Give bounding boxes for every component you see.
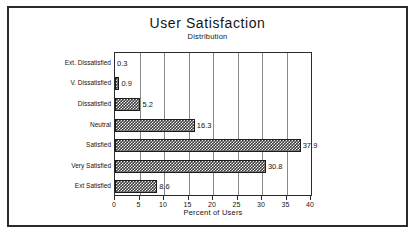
y-axis-labels: Ext. DissatisfiedV. DissatisfiedDissatis… <box>9 52 111 196</box>
x-axis-tick <box>163 196 164 200</box>
y-axis-tick-label: Satisfied <box>86 141 111 148</box>
bar-value-label: 30.8 <box>268 162 283 171</box>
bar-row: 0.3 <box>115 57 127 70</box>
bar <box>115 98 140 111</box>
bar-value-label: 8.6 <box>159 182 169 191</box>
x-axis-tick-label: 0 <box>112 201 116 208</box>
x-axis-tick-label: 5 <box>137 201 141 208</box>
x-axis-tick <box>139 196 140 200</box>
plot-area: 0.30.95.216.337.930.88.6 <box>114 52 312 196</box>
y-axis-tick-label: V. Dissatisfied <box>70 79 111 86</box>
bar-row: 5.2 <box>115 98 153 111</box>
bar <box>115 139 301 152</box>
x-axis-title: Percent of Users <box>114 208 312 217</box>
bar-row: 8.6 <box>115 180 170 193</box>
y-axis-tick-label: Very Satisfied <box>71 162 111 169</box>
x-axis-tick <box>286 196 287 200</box>
bar-value-label: 5.2 <box>142 100 152 109</box>
chart-frame: User Satisfaction Distribution Ext. Diss… <box>7 6 408 227</box>
bar-row: 16.3 <box>115 119 211 132</box>
x-axis-tick <box>237 196 238 200</box>
x-axis-tick <box>310 196 311 200</box>
bar-value-label: 37.9 <box>303 141 318 150</box>
x-axis-tick <box>188 196 189 200</box>
x-axis-tick-label: 20 <box>208 201 216 208</box>
x-axis-tick-label: 15 <box>184 201 192 208</box>
chart-subtitle: Distribution <box>9 32 406 41</box>
bar <box>115 180 157 193</box>
y-axis-tick-label: Ext. Dissatisfied <box>65 59 111 66</box>
x-axis-tick-label: 30 <box>257 201 265 208</box>
bar <box>115 119 195 132</box>
bar-value-label: 0.9 <box>121 79 131 88</box>
page-title: User Satisfaction <box>9 16 406 31</box>
y-axis-tick-label: Neutral <box>90 121 111 128</box>
bar <box>115 160 266 173</box>
x-axis-tick <box>212 196 213 200</box>
x-axis-tick <box>261 196 262 200</box>
bar-value-label: 0.3 <box>117 59 127 68</box>
bar <box>115 77 119 90</box>
x-axis-tick <box>114 196 115 200</box>
bar-series: 0.30.95.216.337.930.88.6 <box>115 53 311 195</box>
bar-row: 37.9 <box>115 139 317 152</box>
x-axis-tick-label: 25 <box>233 201 241 208</box>
x-axis-tick-label: 40 <box>306 201 314 208</box>
y-axis-tick-label: Ext Satisfied <box>75 182 111 189</box>
bar-value-label: 16.3 <box>197 121 212 130</box>
bar-row: 0.9 <box>115 77 132 90</box>
x-axis-tick-label: 10 <box>159 201 167 208</box>
y-axis-tick-label: Dissatisfied <box>78 100 111 107</box>
title-block: User Satisfaction Distribution <box>9 16 406 41</box>
x-axis-tick-label: 35 <box>282 201 290 208</box>
bar-row: 30.8 <box>115 160 283 173</box>
